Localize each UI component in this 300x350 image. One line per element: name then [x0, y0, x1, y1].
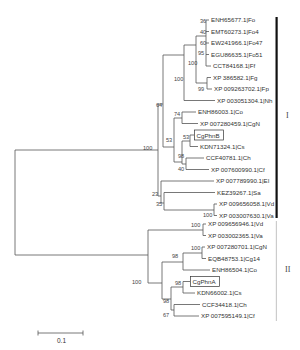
leaf-label: KDN66002.1|Cs: [197, 289, 242, 296]
bootstrap-values: 36 40 60 95 100 99 100 64 74 53 53 98 40…: [132, 18, 212, 318]
leaf-label: XP 007595149.1|Cf: [201, 312, 255, 319]
bootstrap-value: 98: [163, 298, 169, 304]
leaf-label: ENH65677.1|Fo: [211, 16, 256, 23]
bootstrap-value: 99: [198, 86, 204, 92]
bootstrap-value: 98: [175, 280, 181, 286]
bootstrap-value: 100: [191, 222, 200, 228]
bootstrap-value: 100: [132, 279, 141, 285]
tree-branches: [15, 20, 217, 316]
leaf-labels: ENH65677.1|Fo EMT60273.1|Fo4 EW241966.1|…: [191, 16, 275, 319]
clade-bar-i: [276, 17, 278, 218]
scale-bar: 0.1: [38, 331, 83, 345]
bootstrap-value: 98: [172, 253, 178, 259]
bootstrap-value: 74: [174, 111, 180, 117]
leaf-label-cgphna: CgPhnA: [193, 278, 217, 285]
leaf-label: EGU86635.1|Fo51: [211, 51, 263, 58]
leaf-label: CCF34418.1|Ch: [202, 301, 247, 308]
bootstrap-value: 36: [200, 18, 206, 24]
leaf-label: XP 009263702.1|Fp: [214, 85, 269, 92]
bootstrap-value: 100: [203, 212, 212, 218]
leaf-label-cgphnb: CgPhnB: [197, 132, 220, 139]
leaf-label: EMT60273.1|Fo4: [211, 28, 259, 35]
scale-bar-label: 0.1: [57, 337, 66, 344]
leaf-label: ENH86504.1|Co: [212, 266, 258, 273]
bootstrap-value: 95: [198, 50, 204, 56]
bootstrap-value: 40: [200, 29, 206, 35]
bootstrap-value: 98: [178, 153, 184, 159]
leaf-label: XP 003007630.1|Va: [219, 212, 274, 219]
leaf-label: XP 003051304.1|Nh: [217, 97, 273, 104]
bootstrap-value: 100: [143, 145, 152, 151]
leaf-label: XP 007789990.1|EI: [216, 177, 270, 184]
leaf-label: CCT84168.1|Ff: [213, 62, 255, 69]
clade-markers: I II: [276, 17, 291, 321]
leaf-label: XP 007280701.1|CgN: [207, 243, 267, 250]
bootstrap-value: 100: [174, 76, 183, 82]
clade-label-ii: II: [285, 265, 291, 274]
leaf-label: XP 007600990.1|Cf: [211, 166, 265, 173]
leaf-label: XP 386582.1|Fg: [213, 74, 258, 81]
bootstrap-value: 60: [200, 40, 206, 46]
leaf-label: EW241966.1|Fo47: [211, 39, 263, 46]
leaf-label: ENH86003.1|Co: [198, 108, 244, 115]
leaf-label: XP 007280459.1|CgN: [200, 120, 260, 127]
bootstrap-value: 35: [156, 201, 162, 207]
bootstrap-value: 40: [178, 166, 184, 172]
leaf-label: KDN71324.1|Cs: [200, 143, 245, 150]
clade-bar-ii: [276, 221, 277, 321]
clade-label-i: I: [286, 111, 289, 120]
leaf-label: XP 009656058.1|Vd: [219, 200, 275, 207]
phylogenetic-tree: ENH65677.1|Fo EMT60273.1|Fo4 EW241966.1|…: [0, 0, 300, 350]
leaf-label: CCF40781.1|Ch: [206, 154, 251, 161]
bootstrap-value: 64: [156, 102, 162, 108]
bootstrap-value: 100: [188, 60, 197, 66]
bootstrap-value: 67: [163, 312, 169, 318]
leaf-label: XP 009656946.1|Vd: [208, 220, 264, 227]
leaf-label: EQB48753.1|Cg14: [208, 255, 260, 262]
bootstrap-value: 53: [183, 134, 189, 140]
leaf-label: KEZ39267.1|Sa: [217, 189, 261, 196]
bootstrap-value: 53: [166, 137, 172, 143]
leaf-label: XP 003002365.1|Va: [208, 232, 263, 239]
bootstrap-value: 23: [152, 191, 158, 197]
bootstrap-value: 100: [191, 245, 200, 251]
